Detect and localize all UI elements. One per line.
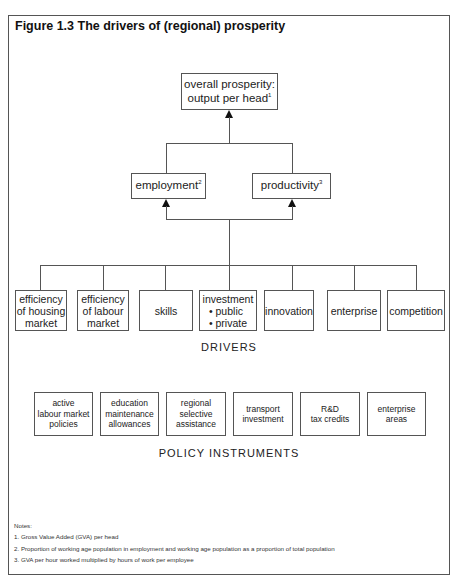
figure-title: Figure 1.3 The drivers of (regional) pro… [15,19,285,33]
policy-rd-tax-credits: R&D tax credits [300,392,360,436]
policy-text: education [105,398,154,409]
driver-skills: skills [139,290,193,331]
policy-education-maintenance: education maintenance allowances [100,392,159,436]
connector-line [292,206,293,220]
connector-line [165,265,166,291]
driver-text: market [17,317,65,329]
driver-enterprise: enterprise [327,290,381,331]
driver-labour-market: efficiency of labour market [77,290,129,331]
policy-text: investment [242,414,283,425]
policy-transport-investment: transport investment [233,392,293,436]
driver-text: of housing [17,305,65,317]
employment-box: employment2 [131,173,206,199]
connector-line [292,143,293,174]
policy-text: enterprise [378,404,416,415]
driver-text: investment [203,293,254,305]
driver-text: efficiency [17,293,65,305]
driver-text: innovation [265,305,313,317]
connector-line [416,265,417,291]
bullet-item: private [209,317,247,329]
connector-line [166,206,167,220]
driver-text: of labour [81,305,125,317]
connector-line [229,117,230,144]
bullet-item: public [209,305,247,317]
connector-line [166,143,167,174]
connector-line [166,143,293,144]
driver-text: efficiency [81,293,125,305]
policy-regional-selective-assistance: regional selective assistance [166,392,226,436]
policy-text: areas [378,414,416,425]
policy-text: allowances [105,419,154,430]
driver-housing-market: efficiency of housing market [15,290,67,331]
policy-text: maintenance [105,409,154,420]
driver-investment: investment public private [199,290,257,331]
policy-active-labour-market: active labour market policies [34,392,93,436]
footnote-ref-2: 2 [198,179,201,185]
policy-instruments-caption: POLICY INSTRUMENTS [8,447,450,459]
employment-label: employment [136,179,199,191]
footnote-ref-3: 3 [319,179,322,185]
connector-line [40,265,41,291]
overall-prosperity-line2: output per head [188,92,269,104]
driver-text: enterprise [331,305,378,317]
notes-heading: Notes: [14,522,32,529]
driver-competition: competition [387,290,445,331]
policy-text: transport [242,404,283,415]
connector-line [103,265,104,291]
policy-text: R&D [311,404,350,415]
policy-text: selective [176,409,216,420]
footnote-ref-1: 1 [268,92,271,98]
overall-prosperity-box: overall prosperity: output per head1 [181,73,278,110]
connector-line [354,265,355,291]
driver-text: skills [155,305,178,317]
connector-line [229,265,230,291]
policy-text: regional [176,398,216,409]
driver-text: market [81,317,125,329]
note-1: 1. Gross Value Added (GVA) per head [14,533,118,540]
productivity-box: productivity3 [252,173,331,199]
policy-text: tax credits [311,414,350,425]
connector-line [292,265,293,291]
policy-text: assistance [176,419,216,430]
policy-text: labour market [38,409,90,420]
note-2: 2. Proportion of working age population … [14,545,335,552]
productivity-label: productivity [261,179,319,191]
drivers-caption: DRIVERS [8,341,450,353]
policy-text: active [38,398,90,409]
policy-text: policies [38,419,90,430]
driver-innovation: innovation [264,290,314,331]
policy-enterprise-areas: enterprise areas [367,392,426,436]
driver-text: competition [389,305,443,317]
overall-prosperity-line1: overall prosperity: [184,78,275,92]
note-3: 3. GVA per hour worked multiplied by hou… [14,556,194,563]
connector-line [229,219,230,266]
